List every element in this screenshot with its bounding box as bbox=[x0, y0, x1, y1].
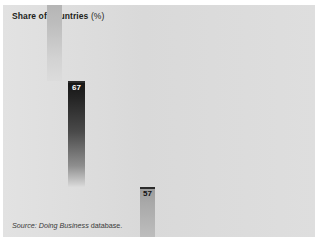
bar-middle-civil: 57 bbox=[140, 187, 155, 237]
source-suffix: database. bbox=[91, 221, 123, 230]
chart-panel: Share of countries (%) 81 67 57 45 47 51… bbox=[3, 5, 315, 237]
bar-rich-inspectors: 67 bbox=[68, 81, 85, 187]
chart-title-unit: (%) bbox=[91, 11, 105, 21]
bar-value-label: 67 bbox=[68, 83, 85, 92]
source-note: Source: Doing Business database. bbox=[12, 221, 122, 230]
bar-value-label: 57 bbox=[140, 189, 155, 198]
source-prefix: Source: bbox=[12, 221, 37, 230]
bar-rich-civil: 81 bbox=[47, 5, 62, 81]
source-publication: Doing Business bbox=[39, 221, 89, 230]
